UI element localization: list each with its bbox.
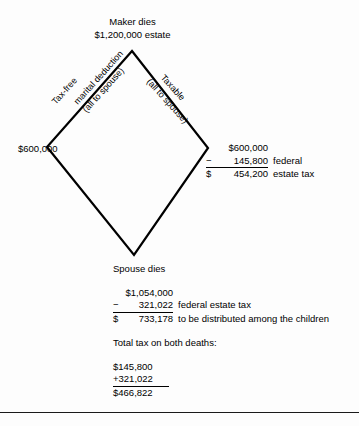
calc-number: $600,000 [214, 142, 268, 155]
calc-number: 145,800 [214, 155, 268, 168]
left-vertex-value: $600,000 [18, 143, 58, 154]
right-vertex-calculation: $600,000 − 145,800 federal $ 454,200 est… [206, 142, 314, 181]
calc-row: − 321,022 federal estate tax [113, 299, 329, 313]
total-row: +321,022 [113, 373, 169, 387]
bottom-divider [0, 412, 359, 413]
calc-number: $1,054,000 [121, 287, 173, 300]
calc-number: 321,022 [121, 299, 173, 313]
calc-row: $600,000 [206, 142, 314, 155]
total-tax-section: Total tax on both deaths: $145,800 +321,… [113, 337, 217, 399]
estate-tax-diagram-page: Maker dies $1,200,000 estate Tax-free ma… [0, 0, 359, 426]
total-tax-title: Total tax on both deaths: [113, 337, 217, 350]
calc-number: 454,200 [214, 167, 268, 181]
calc-row-total: $ 454,200 estate tax [206, 167, 314, 181]
total-row: $145,800 [113, 361, 169, 374]
calc-row: − 145,800 federal [206, 155, 314, 168]
calc-row-total: $ 733,178 to be distributed among the ch… [113, 313, 329, 326]
spouse-dies-title: Spouse dies [113, 263, 329, 276]
calc-number: 733,178 [121, 313, 173, 326]
calc-note: federal [268, 155, 302, 168]
calc-sign: − [113, 299, 121, 313]
calc-sign: − [206, 155, 214, 168]
total-row-sum: $466,822 [113, 387, 169, 400]
calc-note: estate tax [268, 168, 314, 181]
calc-sign: $ [206, 167, 214, 181]
spouse-dies-section: Spouse dies $1,054,000 − 321,022 federal… [113, 263, 329, 325]
calc-note: federal estate tax [173, 299, 251, 312]
calc-row: $1,054,000 [113, 287, 329, 300]
calc-note: to be distributed among the children [173, 313, 329, 326]
calc-sign: $ [113, 313, 121, 326]
